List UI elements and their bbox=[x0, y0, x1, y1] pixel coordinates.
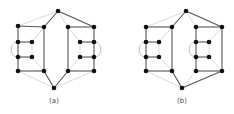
graph-diagram bbox=[0, 0, 234, 114]
node-R3 bbox=[194, 40, 199, 45]
node-R7 bbox=[66, 69, 71, 74]
edge bbox=[159, 27, 172, 42]
node-L1 bbox=[16, 24, 21, 29]
node-R6 bbox=[207, 55, 212, 60]
arc-edge bbox=[11, 42, 18, 57]
node-R5 bbox=[194, 55, 199, 60]
node-b bbox=[52, 86, 57, 91]
edge bbox=[209, 27, 222, 42]
edge bbox=[32, 57, 44, 71]
node-L5 bbox=[144, 55, 149, 60]
node-L1 bbox=[144, 25, 149, 30]
node-L3 bbox=[16, 40, 21, 45]
node-L3 bbox=[144, 40, 149, 45]
node-R4 bbox=[92, 40, 97, 45]
node-R3 bbox=[78, 40, 83, 45]
node-t bbox=[56, 9, 61, 14]
edge bbox=[68, 57, 80, 71]
node-R2 bbox=[220, 25, 225, 30]
arc-edge bbox=[189, 42, 196, 57]
node-L4 bbox=[30, 40, 35, 45]
node-L6 bbox=[157, 55, 162, 60]
edge bbox=[18, 26, 44, 27]
panel-a bbox=[11, 9, 101, 91]
node-t bbox=[184, 9, 189, 14]
node-L7 bbox=[16, 69, 21, 74]
node-L4 bbox=[157, 40, 162, 45]
node-L7 bbox=[144, 69, 149, 74]
node-R2 bbox=[92, 25, 97, 30]
edge bbox=[32, 27, 44, 42]
edge bbox=[54, 71, 68, 88]
node-R4 bbox=[207, 40, 212, 45]
arc-edge bbox=[94, 42, 101, 57]
node-R8 bbox=[220, 69, 225, 74]
edge bbox=[146, 11, 186, 27]
edge bbox=[54, 71, 94, 88]
edge bbox=[159, 57, 172, 71]
node-L2 bbox=[42, 25, 47, 30]
node-L2 bbox=[170, 25, 175, 30]
node-L5 bbox=[16, 55, 21, 60]
node-R5 bbox=[78, 55, 83, 60]
node-R8 bbox=[92, 69, 97, 74]
node-R1 bbox=[66, 25, 71, 30]
edge bbox=[68, 27, 80, 42]
node-b bbox=[180, 86, 185, 91]
node-R6 bbox=[92, 55, 97, 60]
panel-label-a: (a) bbox=[49, 97, 59, 105]
edge bbox=[209, 57, 222, 71]
edge bbox=[172, 11, 186, 27]
panel-label-b: (b) bbox=[177, 97, 187, 105]
node-L8 bbox=[170, 69, 175, 74]
arc-edge bbox=[139, 42, 146, 57]
edge bbox=[182, 71, 222, 88]
node-L6 bbox=[30, 55, 35, 60]
panel-b bbox=[139, 9, 224, 91]
node-R7 bbox=[194, 69, 199, 74]
node-R1 bbox=[194, 25, 199, 30]
node-L8 bbox=[42, 69, 47, 74]
